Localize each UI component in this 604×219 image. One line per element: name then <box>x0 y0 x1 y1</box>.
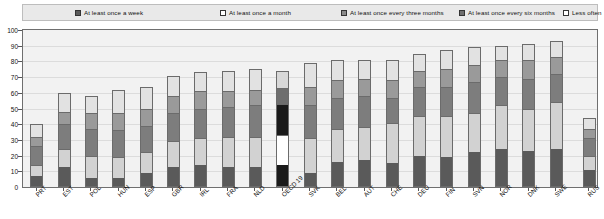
bar-column[interactable] <box>140 87 153 187</box>
legend-label: At least once a month <box>229 9 291 17</box>
bar-segment <box>413 87 426 117</box>
bar-column[interactable] <box>167 76 180 187</box>
bar-column[interactable] <box>413 54 426 187</box>
bar-segment <box>140 126 153 153</box>
bar-segment <box>304 138 317 173</box>
bar-segment <box>85 96 98 113</box>
bar-column[interactable] <box>522 44 535 187</box>
bar-segment <box>440 157 453 187</box>
legend-item-0[interactable]: At least once a week <box>75 9 143 17</box>
bar-segment <box>194 165 207 187</box>
bar-column[interactable] <box>58 93 71 187</box>
bar-segment <box>386 123 399 164</box>
bar-segment <box>468 113 481 152</box>
plot-area <box>22 29 598 188</box>
bar-segment <box>58 149 71 166</box>
bar-segment <box>112 90 125 114</box>
legend-swatch-icon <box>220 10 226 16</box>
bar-segment <box>140 87 153 109</box>
bar-segment <box>413 54 426 71</box>
bar-segment <box>331 98 344 129</box>
bar-segment <box>167 96 180 113</box>
bar-column[interactable] <box>276 71 289 187</box>
legend-item-1[interactable]: At least once a month <box>220 9 291 17</box>
bar-segment <box>495 149 508 187</box>
legend-item-2[interactable]: At least once every three months <box>341 9 444 17</box>
bar-segment <box>522 109 535 151</box>
bar-segment <box>358 96 371 127</box>
bar-segment <box>304 87 317 106</box>
legend-item-3[interactable]: At least once every six months <box>459 9 555 17</box>
bar-segment <box>85 156 98 178</box>
bar-segment <box>468 82 481 113</box>
bar-segment <box>222 71 235 91</box>
bar-segment <box>413 156 426 187</box>
bar-segment <box>112 157 125 177</box>
bar-segment <box>331 129 344 162</box>
bar-column[interactable] <box>550 41 563 187</box>
bar-segment <box>58 112 71 125</box>
bar-segment <box>167 113 180 141</box>
bar-segment <box>440 116 453 157</box>
bar-column[interactable] <box>249 69 262 187</box>
bar-column[interactable] <box>112 90 125 187</box>
chart-root: At least once a weekAt least once a mont… <box>0 0 604 219</box>
y-tick-label: 50 <box>0 105 18 112</box>
bar-column[interactable] <box>222 71 235 187</box>
bar-segment <box>522 151 535 187</box>
chart-legend: At least once a weekAt least once a mont… <box>22 4 598 21</box>
bar-segment <box>249 105 262 136</box>
bar-column[interactable] <box>440 50 453 187</box>
legend-label: At least once every three months <box>350 9 444 17</box>
y-tick-label: 30 <box>0 136 18 143</box>
y-tick-label: 60 <box>0 89 18 96</box>
y-tick-label: 10 <box>0 168 18 175</box>
bar-segment <box>194 91 207 108</box>
bar-column[interactable] <box>85 96 98 187</box>
bar-segment <box>276 165 289 187</box>
bar-segment <box>276 104 289 135</box>
legend-label: At least once every six months <box>468 9 555 17</box>
bar-segment <box>167 76 180 96</box>
bar-segment <box>550 149 563 187</box>
legend-item-4[interactable]: Less often <box>563 9 602 17</box>
bar-segment <box>495 105 508 149</box>
bar-segment <box>495 46 508 60</box>
bar-column[interactable] <box>468 47 481 187</box>
bar-column[interactable] <box>583 118 596 187</box>
bar-segment <box>522 44 535 60</box>
bar-column[interactable] <box>358 60 371 187</box>
bar-column[interactable] <box>30 124 43 187</box>
bar-segment <box>194 138 207 165</box>
bar-column[interactable] <box>495 46 508 187</box>
bar-column[interactable] <box>331 60 344 187</box>
bar-segment <box>140 152 153 172</box>
y-tick-label: 70 <box>0 74 18 81</box>
bar-segment <box>583 129 596 138</box>
legend-label: Less often <box>572 9 602 17</box>
bar-segment <box>358 160 371 187</box>
bar-column[interactable] <box>194 72 207 187</box>
bar-segment <box>358 79 371 96</box>
bar-segment <box>550 57 563 74</box>
bar-segment <box>276 135 289 165</box>
bar-segment <box>58 93 71 112</box>
bar-segment <box>140 109 153 126</box>
bar-segment <box>440 69 453 86</box>
bar-segment <box>249 137 262 167</box>
bar-segment <box>495 60 508 77</box>
bar-segment <box>112 113 125 130</box>
y-tick-label: 20 <box>0 152 18 159</box>
bar-column[interactable] <box>386 60 399 187</box>
bar-segment <box>222 91 235 107</box>
bar-segment <box>386 163 399 187</box>
bar-segment <box>30 146 43 165</box>
bar-segment <box>522 79 535 109</box>
bar-segment <box>386 80 399 97</box>
bar-segment <box>194 72 207 91</box>
y-tick-label: 100 <box>0 27 18 34</box>
bar-segment <box>30 165 43 176</box>
bar-segment <box>413 71 426 87</box>
bar-segment <box>386 98 399 123</box>
bar-column[interactable] <box>304 63 317 187</box>
